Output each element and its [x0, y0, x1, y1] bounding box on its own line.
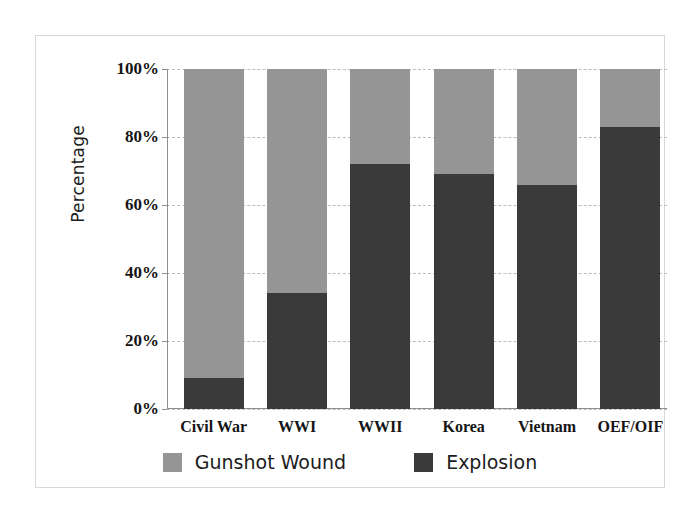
- bar-segment-explosion[interactable]: [517, 185, 577, 409]
- x-tick-label: WWII: [358, 418, 402, 436]
- bar-group[interactable]: Civil War: [184, 69, 244, 409]
- legend-item[interactable]: Gunshot Wound: [163, 451, 346, 473]
- y-tick-label: 100%: [117, 59, 160, 79]
- bar-group[interactable]: WWI: [267, 69, 327, 409]
- legend-swatch: [163, 453, 182, 472]
- y-axis-title: Percentage: [68, 84, 88, 264]
- bar-segment-gunshot-wound[interactable]: [350, 69, 410, 164]
- bar-group[interactable]: OEF/OIF: [600, 69, 660, 409]
- bar-segment-gunshot-wound[interactable]: [600, 69, 660, 127]
- y-axis-line: [167, 69, 168, 409]
- bar-group[interactable]: Vietnam: [517, 69, 577, 409]
- bar-stack[interactable]: [350, 69, 410, 409]
- chart-screenshot: Percentage 0%20%40%60%80%100% Civil WarW…: [0, 0, 697, 526]
- gridline: [167, 409, 667, 410]
- x-tick-label: Civil War: [180, 418, 247, 436]
- bar-segment-gunshot-wound[interactable]: [267, 69, 327, 293]
- legend-item[interactable]: Explosion: [414, 451, 537, 473]
- y-tick-label: 80%: [125, 127, 159, 147]
- bar-stack[interactable]: [267, 69, 327, 409]
- bar-segment-explosion[interactable]: [600, 127, 660, 409]
- bar-stack[interactable]: [434, 69, 494, 409]
- figure-frame: Percentage 0%20%40%60%80%100% Civil WarW…: [35, 35, 665, 488]
- x-tick-label: Korea: [442, 418, 484, 436]
- bar-segment-explosion[interactable]: [267, 293, 327, 409]
- legend-label: Explosion: [446, 451, 537, 473]
- bar-group[interactable]: Korea: [434, 69, 494, 409]
- bar-segment-explosion[interactable]: [184, 378, 244, 409]
- y-tick-mark: [162, 409, 167, 410]
- bar-segment-explosion[interactable]: [350, 164, 410, 409]
- bar-segment-gunshot-wound[interactable]: [434, 69, 494, 174]
- bar-segment-gunshot-wound[interactable]: [517, 69, 577, 185]
- y-tick-label: 40%: [125, 263, 159, 283]
- y-tick-label: 20%: [125, 331, 159, 351]
- bar-segment-gunshot-wound[interactable]: [184, 69, 244, 378]
- y-tick-label: 60%: [125, 195, 159, 215]
- bar-stack[interactable]: [600, 69, 660, 409]
- y-tick-label: 0%: [134, 399, 160, 419]
- legend-label: Gunshot Wound: [195, 451, 346, 473]
- x-tick-label: OEF/OIF: [597, 418, 663, 436]
- x-tick-label: Vietnam: [518, 418, 576, 436]
- bar-segment-explosion[interactable]: [434, 174, 494, 409]
- legend-swatch: [414, 453, 433, 472]
- x-tick-label: WWI: [278, 418, 316, 436]
- bar-group[interactable]: WWII: [350, 69, 410, 409]
- chart-legend: Gunshot WoundExplosion: [36, 451, 664, 473]
- bar-stack[interactable]: [184, 69, 244, 409]
- bar-stack[interactable]: [517, 69, 577, 409]
- plot-area: 0%20%40%60%80%100% Civil WarWWIWWIIKorea…: [167, 69, 667, 409]
